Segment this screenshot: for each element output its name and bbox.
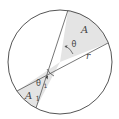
label-r: r — [86, 51, 91, 61]
label-theta: θ — [72, 40, 77, 49]
sector-a — [60, 10, 108, 62]
label-a: A — [80, 24, 88, 35]
label-a1-main: A — [24, 90, 32, 101]
circle-sector-diagram: A θ r θ 1 A 1 — [0, 0, 119, 119]
label-a1-sub: 1 — [35, 95, 39, 103]
label-theta1-sub: 1 — [43, 82, 47, 89]
label-theta1-main: θ — [36, 79, 41, 88]
